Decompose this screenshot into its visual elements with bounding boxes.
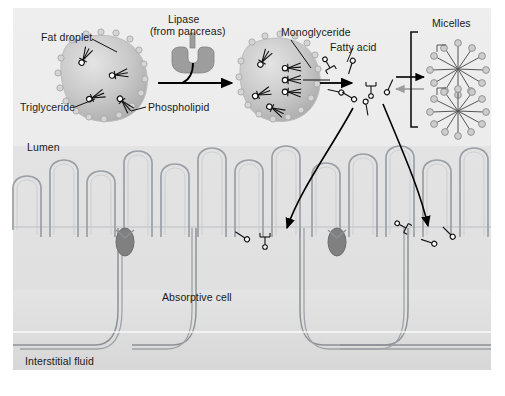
absorption-arrows [287,104,428,228]
label-monoglyceride: Monoglyceride [281,26,351,38]
label-absorptive-cell: Absorptive cell [162,291,232,303]
figure-container: Fat droplet Triglyceride Phospholipid Li… [0,0,505,396]
intracellular-lipids-right [393,218,456,249]
label-fat-droplet: Fat droplet [41,31,92,43]
diagram-svg [0,0,505,396]
label-interstitial-fluid: Interstitial fluid [25,355,94,367]
label-lumen: Lumen [27,141,60,153]
label-fatty-acid: Fatty acid [330,41,377,53]
label-lipase-source: (from pancreas) [150,25,226,37]
label-phospholipid: Phospholipid [148,101,209,113]
fat-droplet-2 [236,31,330,122]
label-lipase: Lipase [168,13,200,25]
micelles-bracket [411,32,418,127]
free-lipids-cluster [320,55,398,116]
equilibrium-arrows [396,77,424,89]
micelle-2 [427,86,490,140]
label-micelles: Micelles [432,17,471,29]
epithelium-layer [13,146,491,370]
intracellular-lipids-left [235,228,270,250]
label-triglyceride: Triglyceride [20,101,75,113]
